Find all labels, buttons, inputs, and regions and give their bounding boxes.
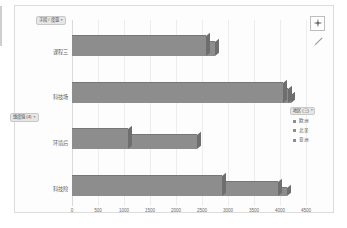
y-category-label-3: 科技险 [13, 187, 68, 192]
bar-series-container [72, 20, 306, 206]
legend-item-0[interactable]: 欧洲 [293, 119, 330, 124]
filter-pill-top-label: 字段 / 度量 [39, 18, 59, 22]
legend-swatch-icon [293, 120, 296, 123]
bar-depth-side [283, 80, 287, 103]
legend-item-1[interactable]: 北美 [293, 129, 330, 134]
legend-swatch-icon [293, 139, 296, 142]
bar-group[interactable] [72, 128, 306, 148]
legend-items: 欧洲北美亚洲 [290, 119, 330, 143]
left-panel-edge [0, 6, 2, 46]
x-tick-4000: 4000 [275, 209, 285, 214]
legend-field-label: 地区 (三) [293, 109, 309, 113]
x-tick-2500: 2500 [197, 209, 207, 214]
add-button[interactable] [310, 16, 325, 31]
plus-icon [313, 19, 322, 28]
x-tick-3500: 3500 [249, 209, 259, 214]
pencil-icon [312, 36, 324, 48]
bar-depth-side [206, 33, 210, 56]
edit-button[interactable] [310, 34, 325, 49]
x-tick-1000: 1000 [119, 209, 129, 214]
filter-pill-middle[interactable]: 维度值 (4) ▾ [10, 113, 39, 122]
chevron-down-icon: ▾ [61, 19, 63, 23]
plot-area [72, 20, 306, 206]
y-category-label-0: 课程三 [13, 50, 68, 55]
y-category-label-1: 科技场 [13, 95, 68, 100]
x-axis-tick-labels: 050010001500200025003000350040004500 [72, 209, 306, 219]
filter-pill-top[interactable]: 字段 / 度量 ▾ [36, 16, 66, 25]
legend-item-label: 欧洲 [299, 119, 309, 124]
bar-segment[interactable] [72, 175, 222, 196]
bar-depth-side [222, 173, 226, 196]
chevron-down-icon: ▾ [311, 109, 313, 112]
bar-depth-side [197, 132, 201, 149]
bar-depth-side [288, 86, 292, 103]
x-tick-500: 500 [94, 209, 102, 214]
bar-group[interactable] [72, 82, 306, 102]
bar-depth-side [278, 179, 282, 196]
legend: 地区 (三) ▾ 欧洲北美亚洲 [290, 107, 330, 148]
legend-item-label: 北美 [299, 129, 309, 134]
bar-depth-side [128, 126, 132, 149]
legend-swatch-icon [293, 129, 296, 132]
y-category-label-2: 环境后 [13, 141, 68, 146]
bar-group[interactable] [72, 175, 306, 195]
x-tick-3000: 3000 [223, 209, 233, 214]
x-tick-4500: 4500 [301, 209, 311, 214]
bar-depth-side [215, 39, 219, 56]
x-tick-2000: 2000 [171, 209, 181, 214]
legend-item-2[interactable]: 亚洲 [293, 138, 330, 143]
legend-field-pill[interactable]: 地区 (三) ▾ [290, 107, 315, 115]
visualization-card: 课程三 科技场 环境后 科技险 050010001500200025003000… [14, 5, 334, 213]
bar-depth-side [287, 185, 291, 196]
bar-segment[interactable] [72, 128, 128, 149]
x-tick-1500: 1500 [145, 209, 155, 214]
bar-segment[interactable] [72, 82, 283, 103]
bar-group[interactable] [72, 35, 306, 55]
screenshot-root: 课程三 科技场 环境后 科技险 050010001500200025003000… [0, 0, 347, 228]
x-tick-0: 0 [71, 209, 74, 214]
chevron-down-icon: ▾ [34, 116, 36, 120]
legend-item-label: 亚洲 [299, 138, 309, 143]
bar-segment[interactable] [72, 35, 206, 56]
filter-pill-middle-label: 维度值 (4) [13, 115, 32, 119]
